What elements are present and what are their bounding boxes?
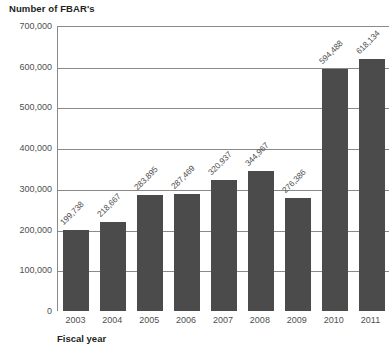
y-axis-tick-label: 600,000 (0, 62, 52, 72)
x-axis-tick-label: 2010 (315, 315, 352, 325)
bar (211, 180, 237, 311)
bar-group: 276,386 (285, 27, 311, 311)
x-axis-tick-label: 2003 (57, 315, 94, 325)
chart-title: Number of FBAR's (9, 3, 95, 14)
bar-group: 594,488 (322, 27, 348, 311)
bar-value-label: 218,667 (95, 191, 123, 219)
x-axis-tick-label: 2008 (241, 315, 278, 325)
bar-value-label: 618,134 (353, 29, 381, 57)
bar-value-label: 594,488 (317, 38, 345, 66)
plot-area: 199,738218,667283,895287,469320,937344,9… (57, 26, 389, 311)
bar-value-label: 344,967 (243, 140, 271, 168)
bar (285, 198, 311, 311)
x-axis-tick-label: 2005 (131, 315, 168, 325)
bar-group: 199,738 (63, 27, 89, 311)
x-axis-tick-label: 2004 (94, 315, 131, 325)
bar (63, 230, 89, 311)
y-axis-tick-label: 500,000 (0, 102, 52, 112)
bar-group: 287,469 (174, 27, 200, 311)
bar (100, 222, 126, 311)
bar (248, 171, 274, 311)
x-axis-tick-label: 2006 (168, 315, 205, 325)
bar-value-label: 287,469 (169, 163, 197, 191)
y-axis-tick-label: 300,000 (0, 184, 52, 194)
bar (322, 69, 348, 311)
bar-value-label: 283,895 (132, 165, 160, 193)
x-axis-title: Fiscal year (57, 333, 106, 344)
y-axis-tick-label: 200,000 (0, 225, 52, 235)
y-axis-tick-label: 100,000 (0, 265, 52, 275)
bar (137, 195, 163, 311)
bar-group: 618,134 (359, 27, 385, 311)
x-axis-tick-label: 2011 (352, 315, 389, 325)
bar (174, 194, 200, 311)
bar-value-label: 320,937 (206, 150, 234, 178)
bar-value-label: 199,738 (58, 199, 86, 227)
bar-group: 320,937 (211, 27, 237, 311)
bar-value-label: 276,386 (280, 168, 308, 196)
y-axis-tick-label: 400,000 (0, 143, 52, 153)
bar-group: 218,667 (100, 27, 126, 311)
x-axis-tick-label: 2009 (278, 315, 315, 325)
y-axis-tick-label: 0 (0, 306, 52, 316)
y-axis-tick-label: 700,000 (0, 21, 52, 31)
bar (359, 59, 385, 311)
bar-group: 283,895 (137, 27, 163, 311)
x-axis-tick-label: 2007 (205, 315, 242, 325)
bar-group: 344,967 (248, 27, 274, 311)
